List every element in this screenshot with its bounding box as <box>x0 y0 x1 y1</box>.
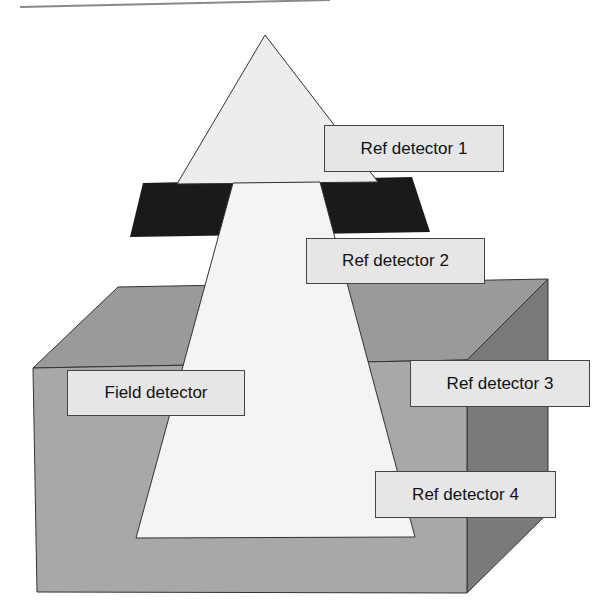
field-detector-label: Field detector <box>67 370 245 416</box>
diagram-graphic <box>0 0 612 614</box>
ref-detector-1-label: Ref detector 1 <box>324 125 504 172</box>
ref-detector-4-label: Ref detector 4 <box>375 471 556 518</box>
ref-detector-3-label: Ref detector 3 <box>410 360 590 407</box>
diagram-canvas: Ref detector 1 Ref detector 2 Field dete… <box>0 0 612 614</box>
header-rule <box>20 0 330 7</box>
ref-detector-2-label: Ref detector 2 <box>306 238 485 284</box>
